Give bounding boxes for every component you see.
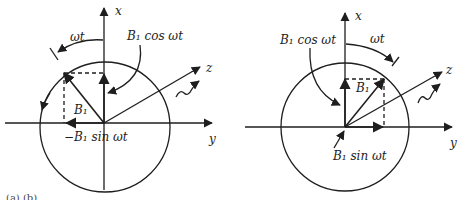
right-sin-pointer	[334, 131, 344, 148]
right-angle-arc	[346, 44, 393, 62]
left-circle-direction-arrow	[42, 93, 50, 110]
right-y-axis-label: y	[450, 137, 457, 149]
right-angle-label: ωt	[370, 33, 385, 45]
right-wave-arrow	[418, 84, 440, 103]
left-angle-tick	[50, 48, 58, 60]
right-x-axis-label: x	[355, 10, 362, 22]
left-z-axis-label: z	[206, 62, 212, 74]
right-b1-label: B₁	[356, 82, 370, 94]
right-cos-label: B₁ cos ωt	[280, 34, 336, 46]
left-y-axis-label: y	[209, 133, 216, 145]
left-b1-label: B₁	[74, 104, 88, 116]
right-sin-label: B₁ sin ωt	[333, 150, 387, 162]
figure-caption: (a) (b)	[6, 192, 37, 200]
left-z-axis	[104, 67, 200, 123]
left-wave-arrow	[176, 81, 199, 97]
left-cos-label: B₁ cos ωt	[127, 30, 183, 42]
rotating-field-diagram: x y z ωt B₁ B₁ cos ωt −B₁ sin ωt x y z ω…	[0, 0, 461, 200]
left-angle-label: ωt	[70, 31, 85, 43]
left-circle	[40, 62, 170, 192]
right-cos-pointer	[310, 48, 340, 105]
left-sin-label: −B₁ sin ωt	[64, 131, 128, 143]
left-x-axis-label: x	[115, 5, 122, 17]
right-panel	[245, 13, 452, 191]
right-z-axis-label: z	[446, 64, 452, 76]
